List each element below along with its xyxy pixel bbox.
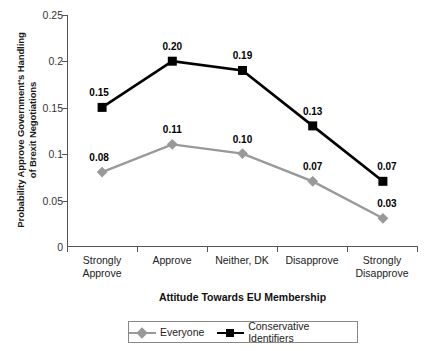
legend-marker-diamond-icon [129,327,156,338]
data-point-label: 0.08 [89,152,108,163]
data-point-label: 0.07 [303,161,322,172]
legend-label: Everyone [160,326,204,338]
data-point-label: 0.15 [89,87,108,98]
data-point-marker [308,121,317,130]
data-point-label: 0.19 [233,50,252,61]
data-point-marker [98,103,107,112]
data-point-marker [378,213,389,224]
chart-figure: Probability Approve Government's Handlin… [0,0,425,351]
data-point-label: 0.03 [377,198,396,209]
data-point-label: 0.11 [163,124,182,135]
data-point-label: 0.13 [303,106,322,117]
legend-marker-square-icon [217,327,244,338]
legend-item-conservative-identifiers[interactable]: Conservative Identifiers [217,320,357,344]
data-point-marker [97,167,108,178]
data-point-label: 0.07 [377,161,396,172]
x-axis-title: Attitude Towards EU Membership [67,291,418,303]
data-point-marker [378,177,387,186]
data-point-marker [168,57,177,66]
chart-legend: Everyone Conservative Identifiers [128,321,358,343]
data-point-marker [238,66,247,75]
data-point-marker [167,139,178,150]
legend-item-everyone[interactable]: Everyone [129,326,204,338]
data-point-label: 0.10 [233,134,252,145]
data-point-marker [307,176,318,187]
series-line-conservative-identifiers [102,61,383,181]
data-point-label: 0.20 [163,41,182,52]
legend-label: Conservative Identifiers [248,320,357,344]
data-point-marker [237,148,248,159]
